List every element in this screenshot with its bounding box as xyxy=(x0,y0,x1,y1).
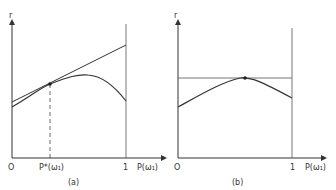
p-star-label-a: P*(ω₁) xyxy=(39,163,64,172)
x-axis-label-a: P(ω₁) xyxy=(137,163,158,172)
max-point-b xyxy=(243,76,247,80)
x-axis-label-b: P(ω₁) xyxy=(305,163,326,172)
curve-b xyxy=(178,78,292,107)
diagram-canvas: r O P*(ω₁) 1 P(ω₁) (a) r O 1 P(ω₁) (b) xyxy=(0,0,336,190)
tangent-point-a xyxy=(48,82,52,86)
origin-label-a: O xyxy=(8,163,14,172)
caption-b: (b) xyxy=(232,178,243,187)
x-tick-one-a: 1 xyxy=(123,163,128,172)
panel-a: r O P*(ω₁) 1 P(ω₁) (a) xyxy=(8,11,164,187)
x-tick-one-b: 1 xyxy=(290,163,295,172)
tangent-line-a xyxy=(12,45,126,102)
curve-a xyxy=(12,75,126,107)
y-axis-label-a: r xyxy=(9,11,13,20)
y-axis-label-b: r xyxy=(174,11,178,20)
panel-b: r O 1 P(ω₁) (b) xyxy=(174,11,326,187)
origin-label-b: O xyxy=(174,163,180,172)
caption-a: (a) xyxy=(68,178,79,187)
